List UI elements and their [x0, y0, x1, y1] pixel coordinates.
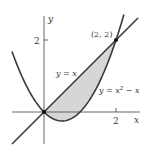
- intersection-point: [114, 38, 118, 42]
- graph-figure: y 2 2 x (2, 2) y = x y = x2 − x: [0, 0, 149, 149]
- x-tick-label-2: 2: [113, 116, 119, 126]
- point-label: (2, 2): [91, 30, 113, 39]
- shaded-region: [44, 40, 116, 121]
- y-tick-label-2: 2: [34, 36, 40, 46]
- plot-canvas: y 2 2 x (2, 2) y = x y = x2 − x: [0, 0, 149, 149]
- parabola-label: y = x2 − x: [98, 85, 140, 95]
- x-axis-label: x: [134, 115, 139, 125]
- line-y-equals-x: [12, 18, 138, 144]
- origin-point: [42, 110, 46, 114]
- y-axis-label: y: [47, 14, 54, 24]
- line-label: y = x: [55, 69, 77, 78]
